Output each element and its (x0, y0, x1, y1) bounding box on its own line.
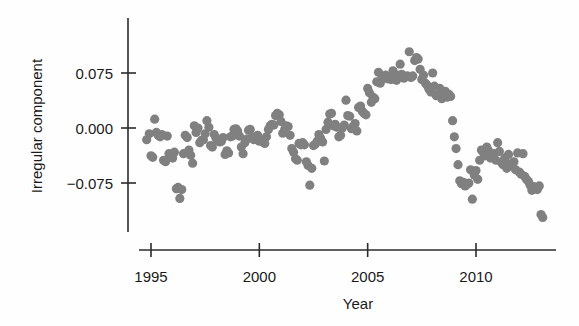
data-point (428, 68, 437, 77)
data-point (446, 92, 455, 101)
y-axis-tick-label: −0.075 (67, 175, 113, 192)
data-point (538, 213, 547, 222)
y-axis-tick-label: 0.075 (75, 65, 113, 82)
data-point (419, 71, 428, 80)
data-points-group (142, 47, 547, 222)
data-point (405, 47, 414, 56)
data-point (473, 175, 482, 184)
data-point (471, 166, 480, 175)
data-point (450, 132, 459, 141)
data-point (284, 122, 293, 131)
x-axis-tick-label: 2010 (459, 268, 492, 285)
data-point (504, 150, 513, 159)
data-point (183, 133, 192, 142)
data-point (370, 94, 379, 103)
data-point (300, 140, 309, 149)
data-point (341, 96, 350, 105)
data-point (163, 131, 172, 140)
data-point (293, 156, 302, 165)
irregular-component-scatter-chart: 0.0750.000−0.0751995200020052010 YearIrr… (0, 0, 579, 326)
data-point (224, 148, 233, 157)
data-point (396, 60, 405, 69)
data-point (468, 195, 477, 204)
data-point (186, 151, 195, 160)
data-point (464, 178, 473, 187)
y-axis-tick-label: 0.000 (75, 120, 113, 137)
data-point (150, 115, 159, 124)
data-point (518, 149, 527, 158)
data-point (318, 137, 327, 146)
data-point (448, 116, 457, 125)
x-axis-tick-label: 2005 (351, 268, 384, 285)
data-point (286, 131, 295, 140)
data-point (414, 54, 423, 63)
data-point (305, 181, 314, 190)
data-point (352, 126, 361, 135)
data-point (193, 123, 202, 132)
data-point (453, 160, 462, 169)
x-axis-title: Year (343, 295, 373, 312)
ticks-group: 0.0750.000−0.0751995200020052010 (67, 65, 493, 286)
data-point (451, 144, 460, 153)
data-point (177, 185, 186, 194)
data-point (148, 153, 157, 162)
data-point (307, 164, 316, 173)
data-point (188, 159, 197, 168)
data-point (535, 181, 544, 190)
data-point (204, 123, 213, 132)
data-point (238, 149, 247, 158)
data-point (361, 110, 370, 119)
chart-plot-area: 0.0750.000−0.0751995200020052010 YearIrr… (0, 0, 579, 326)
data-point (327, 109, 336, 118)
data-point (509, 157, 518, 166)
data-point (320, 156, 329, 165)
data-point (493, 138, 502, 147)
x-axis-tick-label: 1995 (134, 268, 167, 285)
data-point (408, 71, 417, 80)
data-point (175, 194, 184, 203)
x-axis-tick-label: 2000 (243, 268, 276, 285)
y-axis-title: Irregular component (28, 58, 45, 193)
data-point (345, 112, 354, 121)
data-point (170, 148, 179, 157)
